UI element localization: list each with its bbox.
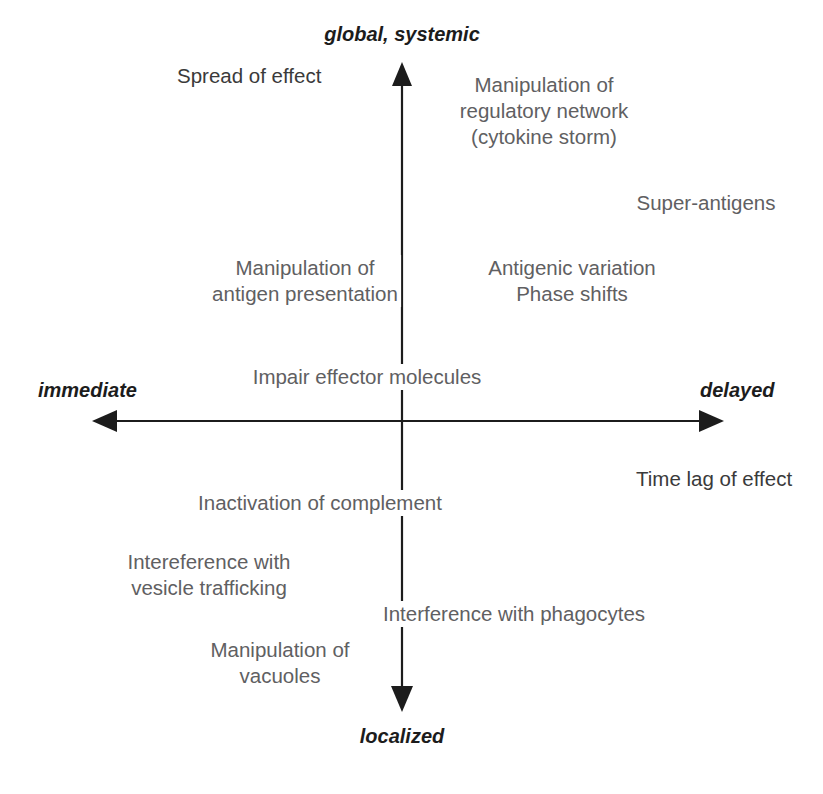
item-interference-with-phagocytes: Interference with phagocytes bbox=[380, 601, 648, 627]
item-inactivation-of-complement: Inactivation of complement bbox=[195, 490, 445, 516]
item-vesicle-trafficking: Intereference with vesicle trafficking bbox=[125, 549, 294, 601]
quadrant-diagram: global, systemic localized immediate del… bbox=[0, 0, 823, 794]
axis-label-immediate: immediate bbox=[38, 378, 137, 402]
item-antigenic-variation: Antigenic variation Phase shifts bbox=[485, 255, 659, 307]
axis-arrow-down bbox=[391, 686, 413, 712]
item-regulatory-network: Manipulation of regulatory network (cyto… bbox=[457, 72, 632, 150]
item-manipulation-of-vacuoles: Manipulation of vacuoles bbox=[207, 637, 352, 689]
axis-label-global-systemic: global, systemic bbox=[324, 22, 480, 46]
item-antigen-presentation: Manipulation of antigen presentation bbox=[209, 255, 401, 307]
item-super-antigens: Super-antigens bbox=[633, 190, 778, 216]
axis-arrow-up bbox=[392, 62, 412, 86]
axis-name-spread-of-effect: Spread of effect bbox=[177, 63, 321, 89]
axis-label-delayed: delayed bbox=[700, 378, 774, 402]
axis-name-time-lag-of-effect: Time lag of effect bbox=[636, 466, 792, 492]
axis-arrow-left bbox=[92, 410, 117, 432]
axis-label-localized: localized bbox=[360, 724, 444, 748]
axis-arrow-right bbox=[699, 410, 724, 432]
item-impair-effector-molecules: Impair effector molecules bbox=[250, 364, 485, 390]
